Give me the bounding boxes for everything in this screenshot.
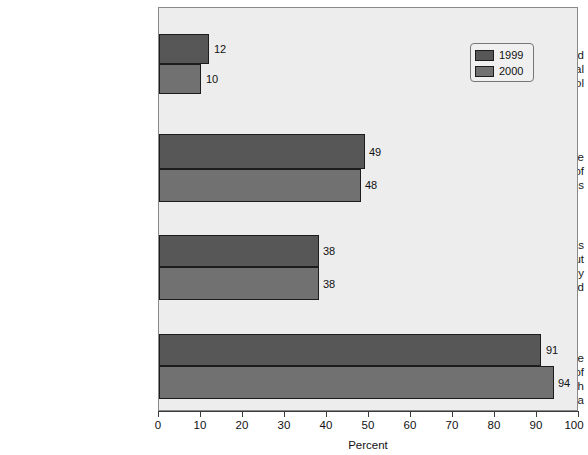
bar-benzodiazepines-2000 xyxy=(159,169,361,202)
x-axis-tick xyxy=(242,411,243,417)
x-axis-tick-label: 40 xyxy=(320,419,333,432)
legend-entry-2000: 2000 xyxy=(475,63,529,79)
x-axis-tick xyxy=(158,411,159,417)
x-axis-tick-label: 10 xyxy=(194,419,207,432)
x-axis-tick-label: 50 xyxy=(362,419,375,432)
value-label-paracetamol-1999: 12 xyxy=(214,44,226,55)
value-label-prn-1999: 38 xyxy=(323,246,335,257)
x-axis-tick-label: 30 xyxy=(278,419,291,432)
x-axis-tick xyxy=(452,411,453,417)
value-label-paracetamol-2000: 10 xyxy=(206,74,218,85)
x-axis-tick-label: 0 xyxy=(155,419,161,432)
bar-aspirin-2000 xyxy=(159,366,554,399)
value-label-prn-2000: 38 xyxy=(323,279,335,290)
legend-label-1999: 1999 xyxy=(499,49,523,61)
value-label-benzodiazepines-2000: 48 xyxy=(365,180,377,191)
x-axis-tick-label: 90 xyxy=(530,419,543,432)
x-axis-tick xyxy=(494,411,495,417)
x-axis-tick xyxy=(200,411,201,417)
bar-paracetamol-2000 xyxy=(159,64,201,94)
x-axis-tick xyxy=(536,411,537,417)
bar-prn-1999 xyxy=(159,235,319,267)
x-axis-tick xyxy=(410,411,411,417)
x-axis-tick-label: 100 xyxy=(564,419,583,432)
x-axis-tick-label: 70 xyxy=(446,419,459,432)
x-axis-tick xyxy=(284,411,285,417)
x-axis-tick-label: 80 xyxy=(488,419,501,432)
bar-benzodiazepines-1999 xyxy=(159,134,365,169)
x-axis-tick xyxy=(326,411,327,417)
legend-label-2000: 2000 xyxy=(499,65,523,77)
x-axis-tick-label: 20 xyxy=(236,419,249,432)
value-label-aspirin-1999: 91 xyxy=(546,345,558,356)
bar-paracetamol-1999 xyxy=(159,34,209,64)
value-label-benzodiazepines-1999: 49 xyxy=(369,147,381,158)
legend-swatch-1999 xyxy=(475,50,494,61)
x-axis-title: Percent xyxy=(158,439,578,452)
x-axis-tick xyxy=(578,411,579,417)
x-axis-tick-label: 60 xyxy=(404,419,417,432)
legend-swatch-2000 xyxy=(475,66,494,77)
x-axis-tick xyxy=(368,411,369,417)
value-label-aspirin-2000: 94 xyxy=(558,378,570,389)
bar-prn-2000 xyxy=(159,267,319,300)
legend-entry-1999: 1999 xyxy=(475,47,529,63)
legend: 1999 2000 xyxy=(470,43,534,82)
bar-aspirin-1999 xyxy=(159,334,541,366)
bar-chart: % patients prescribed potential overdose… xyxy=(0,0,588,455)
